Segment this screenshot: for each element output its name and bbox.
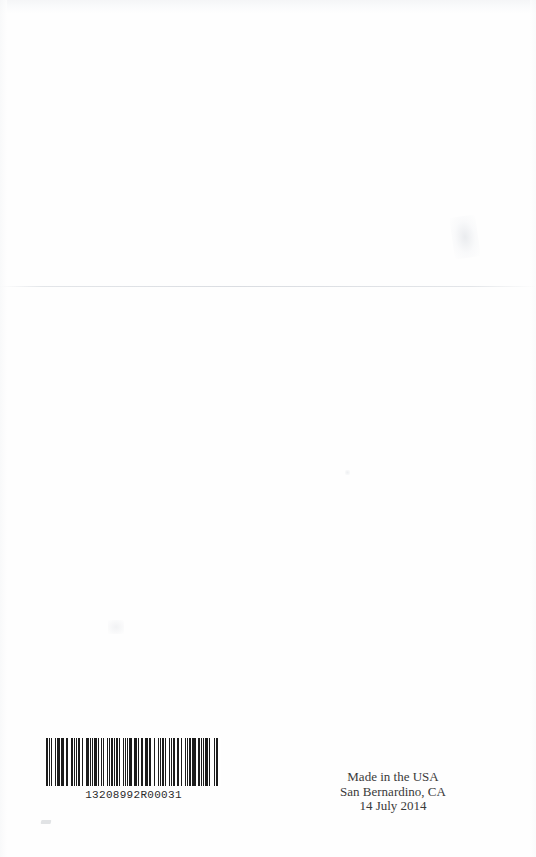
scan-dust-speck (345, 470, 350, 475)
imprint-line-date: 14 July 2014 (300, 799, 486, 814)
scan-edge-artifact-left (0, 0, 7, 857)
scan-edge-artifact-right (530, 0, 536, 857)
stray-ink-mark (41, 820, 52, 824)
scanned-page: 13208992R00031 Made in the USA San Berna… (0, 0, 536, 857)
barcode-symbol (46, 738, 221, 786)
imprint-line-made-in: Made in the USA (300, 770, 486, 785)
page-fold-crease (0, 286, 536, 287)
barcode-bar (218, 738, 221, 786)
imprint-line-city: San Bernardino, CA (300, 785, 486, 800)
scan-edge-artifact-top (0, 0, 536, 14)
scan-smudge-artifact (449, 214, 481, 259)
scan-speck-artifact (108, 620, 124, 634)
imprint-block: Made in the USA San Bernardino, CA 14 Ju… (300, 770, 486, 814)
barcode-number-text: 13208992R00031 (46, 789, 221, 801)
barcode-block: 13208992R00031 (46, 738, 221, 801)
